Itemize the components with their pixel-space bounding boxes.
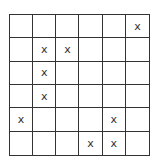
grid-cell-r2-c4 xyxy=(103,62,126,85)
grid-cell-r5-c1 xyxy=(33,132,56,155)
grid-cell-r4-c1 xyxy=(33,108,56,131)
grid-cell-r3-c0 xyxy=(10,85,33,108)
grid-cell-r5-c3: x xyxy=(79,132,102,155)
grid-cell-r4-c5 xyxy=(126,108,149,131)
grid-cell-r5-c5 xyxy=(126,132,149,155)
grid-cell-r2-c2 xyxy=(56,62,79,85)
grid-board: xxxxxxxxx xyxy=(9,14,150,156)
grid-cell-r4-c2 xyxy=(56,108,79,131)
grid-cell-r5-c0 xyxy=(10,132,33,155)
grid-cell-r5-c4: x xyxy=(103,132,126,155)
grid-cell-r3-c2 xyxy=(56,85,79,108)
grid-cell-r0-c5: x xyxy=(126,15,149,38)
grid-cell-r0-c1 xyxy=(33,15,56,38)
grid-cell-r1-c3 xyxy=(79,38,102,61)
grid-cell-r1-c1: x xyxy=(33,38,56,61)
grid-cell-r1-c4 xyxy=(103,38,126,61)
grid-cell-r0-c3 xyxy=(79,15,102,38)
grid-cell-r4-c4: x xyxy=(103,108,126,131)
grid-cell-r5-c2 xyxy=(56,132,79,155)
grid-cell-r2-c5 xyxy=(126,62,149,85)
grid-cell-r0-c2 xyxy=(56,15,79,38)
grid-cell-r3-c4 xyxy=(103,85,126,108)
grid-cell-r0-c4 xyxy=(103,15,126,38)
grid-cell-r1-c2: x xyxy=(56,38,79,61)
grid-cell-r3-c1: x xyxy=(33,85,56,108)
grid-cell-r0-c0 xyxy=(10,15,33,38)
grid-cell-r4-c0: x xyxy=(10,108,33,131)
grid-cell-r2-c3 xyxy=(79,62,102,85)
grid-cell-r3-c3 xyxy=(79,85,102,108)
grid-cell-r3-c5 xyxy=(126,85,149,108)
grid-cell-r1-c5 xyxy=(126,38,149,61)
grid-cell-r2-c1: x xyxy=(33,62,56,85)
grid-cell-r4-c3 xyxy=(79,108,102,131)
grid-cell-r1-c0 xyxy=(10,38,33,61)
grid-cell-r2-c0 xyxy=(10,62,33,85)
